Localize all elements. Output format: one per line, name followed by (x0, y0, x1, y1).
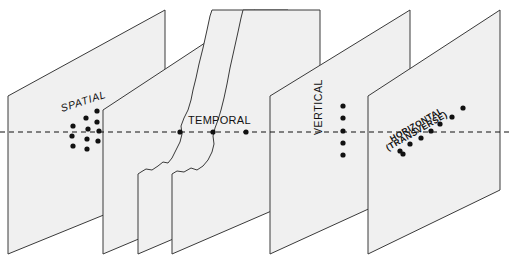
label-temporal: TEMPORAL (188, 114, 251, 126)
figure-canvas: SPATIAL TEMPORAL VERTICAL HORIZONTAL (TR… (0, 0, 511, 264)
label-vertical: VERTICAL (312, 79, 324, 135)
